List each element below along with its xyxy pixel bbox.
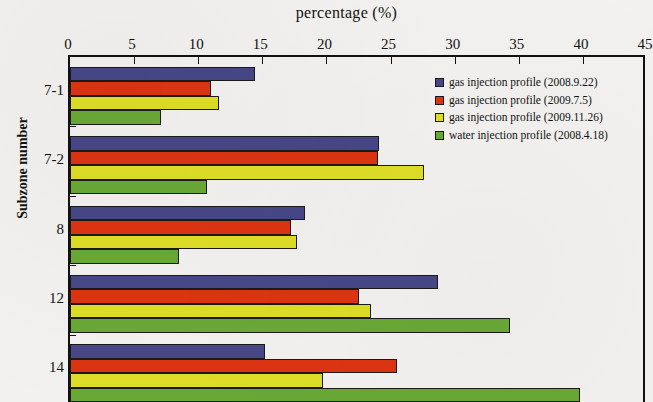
- bar: [70, 180, 207, 195]
- y-axis-category-label: 12: [20, 289, 64, 306]
- y-axis-category-label: 7-1: [20, 81, 64, 98]
- x-axis-tick-label: 10: [189, 36, 204, 53]
- bar: [70, 344, 265, 359]
- x-axis-tick-mark: [326, 57, 327, 64]
- bar: [70, 275, 438, 290]
- x-axis-tick-label: 0: [64, 36, 72, 53]
- x-axis-tick-mark: [455, 57, 456, 64]
- x-axis-tick-label: 20: [317, 36, 332, 53]
- bar: [70, 304, 371, 319]
- bar: [70, 373, 323, 388]
- x-axis-tick-mark: [262, 57, 263, 64]
- x-axis-tick-labels: 051015202530354045: [68, 36, 645, 54]
- y-axis-tick-mark: [70, 196, 76, 197]
- legend-label: gas injection profile (2008.9.22): [449, 74, 598, 92]
- x-axis-tick-mark: [583, 57, 584, 64]
- legend-label: gas injection profile (2009.7.5): [449, 92, 592, 110]
- x-axis-tick-mark: [134, 57, 135, 64]
- legend-color-swatch: [435, 113, 444, 122]
- legend-color-swatch: [435, 96, 444, 105]
- legend-color-swatch: [435, 78, 444, 87]
- y-axis-category-label: 8: [20, 220, 64, 237]
- x-axis-tick-mark: [198, 57, 199, 64]
- x-axis-tick-label: 40: [573, 36, 588, 53]
- y-axis-tick-mark: [70, 265, 76, 266]
- bar: [70, 235, 297, 250]
- bar: [70, 206, 305, 221]
- legend-color-swatch: [435, 131, 444, 140]
- chart-title: percentage (%): [0, 4, 653, 22]
- legend-item[interactable]: water injection profile (2008.4.18): [435, 127, 608, 145]
- legend-item[interactable]: gas injection profile (2009.7.5): [435, 92, 608, 110]
- bar: [70, 81, 211, 96]
- x-axis-tick-mark: [391, 57, 392, 64]
- bar: [70, 96, 219, 111]
- y-axis-category-label: 14: [20, 359, 64, 376]
- bar-chart: percentage (%) 051015202530354045 Subzon…: [0, 0, 653, 402]
- legend-item[interactable]: gas injection profile (2008.9.22): [435, 74, 608, 92]
- bar: [70, 136, 379, 151]
- legend-label: gas injection profile (2009.11.26): [449, 109, 603, 127]
- x-axis-tick-label: 30: [445, 36, 460, 53]
- x-axis-tick-label: 35: [509, 36, 524, 53]
- y-axis-tick-mark: [70, 126, 76, 127]
- bar: [70, 249, 179, 264]
- bar: [70, 388, 580, 402]
- bar: [70, 165, 424, 180]
- y-axis-category-label: 7-2: [20, 151, 64, 168]
- bar: [70, 110, 161, 125]
- x-axis-tick-label: 25: [381, 36, 396, 53]
- bar: [70, 318, 510, 333]
- bar: [70, 67, 255, 82]
- x-axis-tick-label: 5: [128, 36, 136, 53]
- x-axis-tick-mark: [519, 57, 520, 64]
- x-axis-tick-label: 45: [638, 36, 653, 53]
- y-axis-tick-mark: [70, 335, 76, 336]
- x-axis-tick-label: 15: [253, 36, 268, 53]
- bar: [70, 151, 378, 166]
- bar: [70, 220, 291, 235]
- chart-legend: gas injection profile (2008.9.22)gas inj…: [435, 74, 608, 144]
- y-axis-category-labels: 7-17-281214: [10, 55, 64, 402]
- bar: [70, 289, 359, 304]
- legend-item[interactable]: gas injection profile (2009.11.26): [435, 109, 608, 127]
- legend-label: water injection profile (2008.4.18): [449, 127, 608, 145]
- bar: [70, 359, 397, 374]
